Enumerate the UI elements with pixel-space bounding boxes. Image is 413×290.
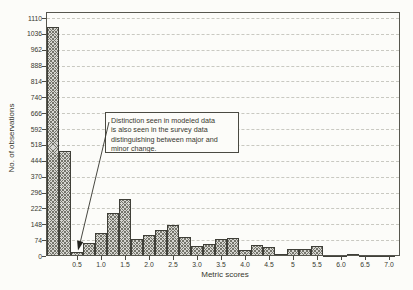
histogram-bar (227, 238, 239, 256)
histogram-bar (47, 27, 59, 256)
x-axis-title: Metric scores (150, 270, 300, 279)
x-tick (221, 256, 222, 260)
y-tick-label: 1110 (8, 15, 42, 22)
histogram-bar (191, 246, 203, 256)
x-tick-label: 6.5 (354, 261, 376, 268)
x-tick-label: 0.5 (66, 261, 88, 268)
x-tick-label: 5.5 (306, 261, 328, 268)
histogram-bar (203, 244, 215, 256)
x-tick-label: 7.0 (378, 261, 400, 268)
gridline (47, 18, 399, 19)
histogram-bar (263, 247, 275, 256)
annotation-line-3: distinguishing between major and (111, 135, 238, 144)
histogram-bar (347, 254, 359, 256)
histogram-bar (83, 243, 95, 256)
x-tick (197, 256, 198, 260)
y-tick (42, 113, 46, 114)
histogram-bar (119, 199, 131, 256)
x-tick (269, 256, 270, 260)
gridline (47, 97, 399, 98)
y-tick (42, 129, 46, 130)
y-tick-label: 148 (8, 221, 42, 228)
y-axis-title: No. of observations (7, 104, 16, 173)
y-tick (42, 256, 46, 257)
y-tick-label: 814 (8, 78, 42, 85)
x-tick-label: 6.0 (330, 261, 352, 268)
x-tick (341, 256, 342, 260)
histogram-bar (59, 151, 71, 256)
y-tick (42, 50, 46, 51)
x-tick (245, 256, 246, 260)
x-tick-label: 1.0 (90, 261, 112, 268)
histogram-figure: 0741482222963704445185926667408148889621… (0, 0, 413, 290)
y-tick (42, 145, 46, 146)
y-tick (42, 34, 46, 35)
y-tick-label: 888 (8, 62, 42, 69)
gridline (47, 208, 399, 209)
y-tick-label: 222 (8, 205, 42, 212)
gridline (47, 34, 399, 35)
x-tick-label: 1.5 (114, 261, 136, 268)
histogram-bar (371, 255, 383, 257)
x-tick-label: 2.0 (138, 261, 160, 268)
histogram-bar (251, 245, 263, 256)
x-tick (149, 256, 150, 260)
gridline (47, 161, 399, 162)
y-tick (42, 81, 46, 82)
y-tick-label: 296 (8, 189, 42, 196)
gridline (47, 224, 399, 225)
histogram-bar (179, 237, 191, 256)
x-tick-label: 3.0 (186, 261, 208, 268)
x-tick-label: 5 (282, 261, 304, 268)
y-tick (42, 177, 46, 178)
x-tick (125, 256, 126, 260)
histogram-bar (107, 213, 119, 256)
annotation-line-1: Distinction seen in modeled data (111, 116, 238, 125)
histogram-bar (311, 246, 323, 256)
histogram-bar (155, 230, 167, 256)
histogram-bar (215, 239, 227, 256)
x-tick (101, 256, 102, 260)
y-tick (42, 66, 46, 67)
annotation-box: Distinction seen in modeled data is also… (105, 112, 239, 153)
y-tick (42, 161, 46, 162)
histogram-bar (299, 249, 311, 256)
x-tick (317, 256, 318, 260)
y-tick-label: 740 (8, 94, 42, 101)
y-tick-label: 0 (8, 253, 42, 260)
gridline (47, 177, 399, 178)
x-tick-label: 4.5 (258, 261, 280, 268)
x-tick-label: 4.0 (234, 261, 256, 268)
x-tick (293, 256, 294, 260)
x-tick (173, 256, 174, 260)
y-tick (42, 208, 46, 209)
y-tick-label: 962 (8, 46, 42, 53)
histogram-bar (287, 249, 299, 256)
y-tick-label: 1036 (8, 30, 42, 37)
histogram-bar (95, 233, 107, 256)
histogram-bar (275, 254, 287, 256)
y-tick (42, 240, 46, 241)
annotation-line-2: is also seen in the survey data (111, 125, 238, 134)
y-tick-label: 74 (8, 237, 42, 244)
histogram-bar (323, 255, 335, 257)
histogram-bar (131, 239, 143, 256)
gridline (47, 50, 399, 51)
histogram-bar (167, 225, 179, 256)
gridline (47, 81, 399, 82)
gridline (47, 66, 399, 67)
annotation-line-4: minor change. (111, 144, 238, 153)
y-tick-label: 370 (8, 173, 42, 180)
y-tick (42, 224, 46, 225)
x-tick-label: 3.5 (210, 261, 232, 268)
x-tick-label: 2.5 (162, 261, 184, 268)
histogram-bar (143, 235, 155, 256)
y-tick (42, 97, 46, 98)
y-tick (42, 18, 46, 19)
gridline (47, 193, 399, 194)
x-tick (77, 256, 78, 260)
x-tick (365, 256, 366, 260)
y-tick (42, 193, 46, 194)
x-tick (389, 256, 390, 260)
